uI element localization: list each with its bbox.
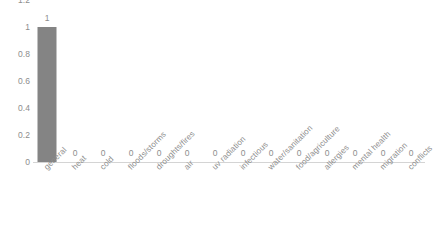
bar-value-label: 0 <box>101 149 106 158</box>
x-axis-label-slot: mental health <box>341 164 369 238</box>
y-axis-tick-label: 1.2 <box>4 0 30 4</box>
bar-value-label: 0 <box>73 149 78 158</box>
bar-value-label: 0 <box>381 149 386 158</box>
bar-slot: 0 <box>341 0 369 162</box>
x-axis-label-slot: cold <box>89 164 117 238</box>
bar-value-label: 0 <box>157 149 162 158</box>
bar-value-label: 0 <box>185 149 190 158</box>
bar-chart: 00.20.40.60.811.2 10000000000000 general… <box>0 0 433 238</box>
x-axis-label-slot: uv radiation <box>201 164 229 238</box>
bar-slot: 0 <box>201 0 229 162</box>
bar-slot: 1 <box>33 0 61 162</box>
plot-area: 10000000000000 <box>33 0 425 163</box>
bar-slot: 0 <box>89 0 117 162</box>
bar-value-label: 0 <box>353 149 358 158</box>
x-axis-label-slot: migration <box>369 164 397 238</box>
bar-value-label: 0 <box>325 149 330 158</box>
x-axis-label-slot: allergies <box>313 164 341 238</box>
bar-slot: 0 <box>117 0 145 162</box>
x-axis-label-slot: heat <box>61 164 89 238</box>
bar-value-label: 0 <box>241 149 246 158</box>
bar-value-label: 0 <box>297 149 302 158</box>
x-axis-labels: generalheatcoldfloods/stormsdroughts/fir… <box>33 164 425 238</box>
x-axis-label-slot: droughts/fires <box>145 164 173 238</box>
bar-value-label: 0 <box>269 149 274 158</box>
y-axis: 00.20.40.60.811.2 <box>0 0 30 170</box>
x-axis-label-slot: general <box>33 164 61 238</box>
x-axis-label-slot: food/agriculture <box>285 164 313 238</box>
bar <box>38 27 57 162</box>
x-axis-label-slot: conflicts <box>397 164 425 238</box>
bar-value-label: 1 <box>45 14 50 23</box>
y-axis-tick-label: 0.4 <box>4 104 30 113</box>
y-axis-tick-label: 0.6 <box>4 77 30 86</box>
bar-slot: 0 <box>61 0 89 162</box>
y-axis-tick-label: 0.2 <box>4 131 30 140</box>
bar-value-label: 0 <box>129 149 134 158</box>
y-axis-tick-label: 0 <box>4 158 30 167</box>
y-axis-tick-label: 0.8 <box>4 50 30 59</box>
bar-slot: 0 <box>257 0 285 162</box>
x-axis-label-slot: air <box>173 164 201 238</box>
x-axis-label-slot: infectious <box>229 164 257 238</box>
y-axis-tick-label: 1 <box>4 23 30 32</box>
bar-slot: 0 <box>397 0 425 162</box>
bar-value-label: 0 <box>409 149 414 158</box>
x-axis-label-slot: floods/storms <box>117 164 145 238</box>
x-axis-label-slot: water/sanitation <box>257 164 285 238</box>
bar-value-label: 0 <box>213 149 218 158</box>
